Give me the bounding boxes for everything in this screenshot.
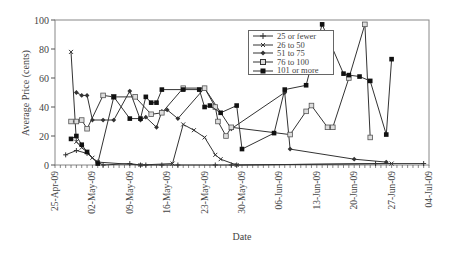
x-axis: 25-Apr-0902-May-0909-May-0916-May-0923-M… (50, 165, 434, 214)
legend: 25 or fewer 26 to 50 51 to 75 76 to 100 … (248, 30, 334, 75)
svg-text:40: 40 (39, 102, 49, 113)
diamond-marker-icon (252, 49, 274, 57)
line-chart: 020406080100 25-Apr-0902-May-0909-May-09… (0, 0, 453, 254)
svg-text:13-Jun-09: 13-Jun-09 (312, 171, 322, 210)
open-square-marker-icon (252, 58, 274, 66)
plot-area (55, 20, 429, 165)
svg-text:80: 80 (39, 44, 49, 55)
legend-label: 101 or more (277, 66, 319, 75)
svg-text:100: 100 (34, 15, 49, 26)
svg-text:20-Jun-09: 20-Jun-09 (349, 171, 359, 210)
series-101-or-more (69, 22, 394, 166)
plus-marker-icon (252, 32, 274, 40)
svg-text:25-Apr-09: 25-Apr-09 (50, 171, 60, 211)
filled-square-marker-icon (252, 67, 274, 75)
x-axis-label: Date (233, 231, 252, 242)
svg-text:20: 20 (39, 131, 49, 142)
y-axis: 020406080100 (34, 15, 55, 171)
series-layer (63, 22, 426, 167)
svg-text:0: 0 (44, 160, 49, 171)
y-axis-label: Average Price (cents) (20, 50, 32, 136)
cross-marker-icon (252, 41, 274, 49)
svg-text:30-May-09: 30-May-09 (237, 171, 247, 214)
svg-text:27-Jun-09: 27-Jun-09 (387, 171, 397, 210)
svg-text:06-Jun-09: 06-Jun-09 (274, 171, 284, 210)
svg-text:60: 60 (39, 73, 49, 84)
legend-item-101-or-more: 101 or more (252, 66, 330, 75)
svg-text:09-May-09: 09-May-09 (125, 171, 135, 214)
svg-text:16-May-09: 16-May-09 (162, 171, 172, 214)
svg-text:02-May-09: 02-May-09 (87, 171, 97, 214)
svg-text:04-Jul-09: 04-Jul-09 (424, 171, 434, 208)
svg-text:23-May-09: 23-May-09 (200, 171, 210, 214)
